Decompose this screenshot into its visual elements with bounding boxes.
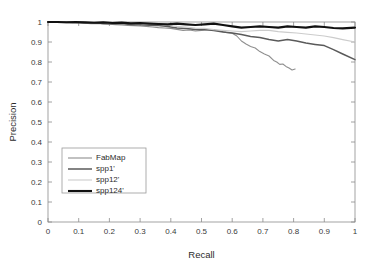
y-tick-label: 0.7 <box>31 78 43 87</box>
legend-item-label: spp12' <box>96 175 120 184</box>
legend-item-label: spp124' <box>96 186 124 195</box>
y-tick-label: 0.6 <box>31 98 43 107</box>
x-tick-label: 0.8 <box>288 227 300 236</box>
precision-recall-chart: 00.10.20.30.40.50.60.70.80.91 00.10.20.3… <box>0 0 371 267</box>
y-tick-label: 0.8 <box>31 58 43 67</box>
x-tick-label: 1 <box>353 227 358 236</box>
y-tick-label: 0 <box>38 218 43 227</box>
legend-item-label: FabMap <box>96 153 126 162</box>
y-tick-label: 0.2 <box>31 178 43 187</box>
x-axis-title: Recall <box>188 249 214 260</box>
y-tick-label: 0.4 <box>31 138 43 147</box>
y-tick-label: 0.5 <box>31 118 43 127</box>
legend-item-label: spp1' <box>96 164 115 173</box>
x-tick-label: 0.1 <box>73 227 85 236</box>
y-tick-label: 0.9 <box>31 38 43 47</box>
x-tick-label: 0.7 <box>257 227 269 236</box>
chart-legend: FabMapspp1'spp12'spp124' <box>62 148 146 195</box>
x-tick-label: 0.6 <box>227 227 239 236</box>
x-tick-label: 0 <box>46 227 51 236</box>
y-tick-label: 0.3 <box>31 158 43 167</box>
x-tick-label: 0.9 <box>319 227 331 236</box>
x-tick-label: 0.3 <box>135 227 147 236</box>
precision-recall-figure: 00.10.20.30.40.50.60.70.80.91 00.10.20.3… <box>0 0 371 267</box>
y-tick-label: 1 <box>38 18 43 27</box>
y-tick-label: 0.1 <box>31 198 43 207</box>
x-tick-label: 0.2 <box>104 227 116 236</box>
y-axis-title: Precision <box>7 102 18 141</box>
figure-background <box>0 0 371 267</box>
x-tick-label: 0.4 <box>165 227 177 236</box>
x-tick-label: 0.5 <box>196 227 208 236</box>
